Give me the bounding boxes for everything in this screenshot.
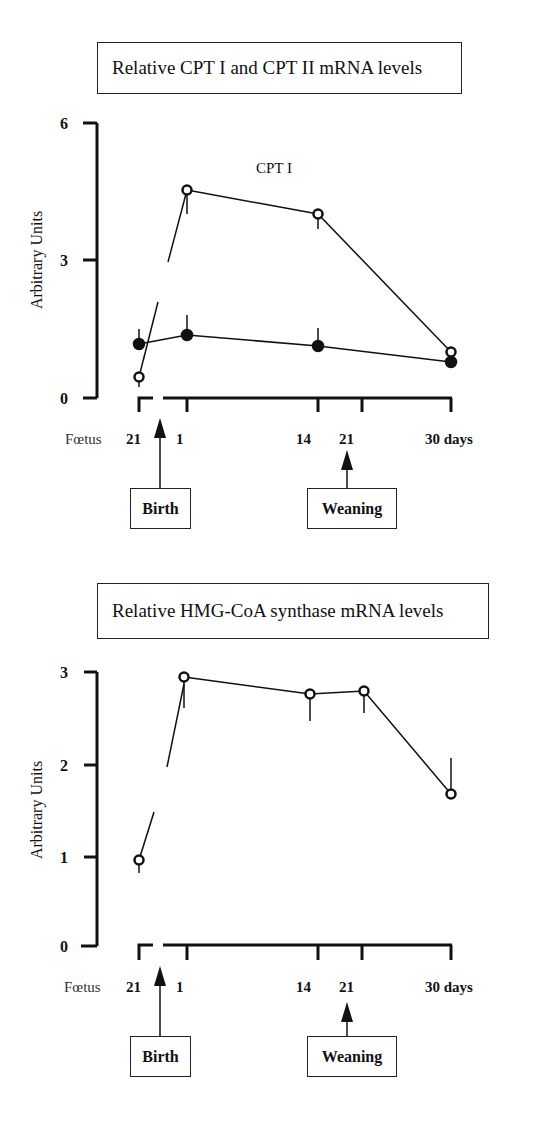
y-axis-label: Arbitrary Units xyxy=(28,761,46,859)
y-tick-2: 2 xyxy=(60,757,68,774)
x-tick-30: 30 days xyxy=(425,431,473,447)
cpt-plot: 6 3 0 Arbitrary Units Fœtus 21 1 14 21 3… xyxy=(0,0,546,560)
birth-arrow xyxy=(154,418,166,488)
x-label-foetus: Fœtus xyxy=(65,431,102,447)
weaning-label: Weaning xyxy=(307,1036,397,1077)
y-tick-6: 6 xyxy=(60,115,68,132)
y-tick-3: 3 xyxy=(60,664,68,681)
x-tick-14: 14 xyxy=(296,979,312,995)
birth-label: Birth xyxy=(130,1036,191,1077)
cpt-panel: Relative CPT I and CPT II mRNA levels 6 … xyxy=(0,0,546,560)
x-tick-21: 21 xyxy=(339,979,354,995)
x-tick-30: 30 days xyxy=(425,979,473,995)
x-tick-1: 1 xyxy=(176,431,184,447)
birth-arrow xyxy=(154,966,166,1036)
x-label-foetus: Fœtus xyxy=(64,979,101,995)
y-axis-label: Arbitrary Units xyxy=(28,211,46,309)
x-axis xyxy=(139,398,452,412)
series-hmg xyxy=(135,673,456,874)
birth-label: Birth xyxy=(130,488,191,529)
y-axis xyxy=(81,672,97,946)
weaning-label: Weaning xyxy=(307,488,397,529)
x-tick-f21: 21 xyxy=(126,431,141,447)
x-tick-21: 21 xyxy=(339,431,354,447)
y-tick-0: 0 xyxy=(60,938,68,955)
y-tick-3: 3 xyxy=(60,252,68,269)
x-tick-f21: 21 xyxy=(126,979,141,995)
x-tick-1: 1 xyxy=(176,979,184,995)
y-tick-0: 0 xyxy=(60,390,68,407)
y-axis xyxy=(83,123,97,398)
weaning-arrow xyxy=(341,450,353,488)
weaning-arrow xyxy=(341,1002,353,1036)
y-tick-1: 1 xyxy=(60,849,68,866)
series-cpt2 xyxy=(134,315,457,368)
series-label-cpt1: CPT I xyxy=(256,160,292,176)
x-tick-14: 14 xyxy=(296,431,312,447)
hmg-panel: Relative HMG-CoA synthase mRNA levels 3 … xyxy=(0,560,546,1127)
hmg-plot: 3 2 1 0 Arbitrary Units Fœtus 21 1 14 21… xyxy=(0,560,546,1127)
x-axis xyxy=(139,945,452,960)
